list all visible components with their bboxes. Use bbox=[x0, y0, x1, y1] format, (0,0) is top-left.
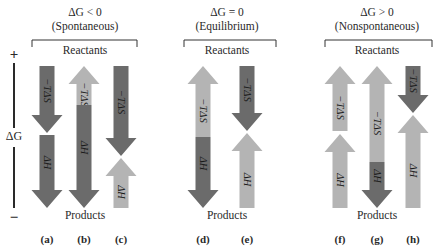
minus-t-delta-s-label: −TΔS bbox=[242, 77, 253, 102]
enthalpy-arrow-up bbox=[325, 134, 356, 208]
products-label: Products bbox=[65, 209, 106, 221]
panel-letter: (d) bbox=[196, 233, 210, 246]
minus-t-delta-s-label: −TΔS bbox=[79, 82, 90, 107]
panel-letter: (b) bbox=[77, 233, 91, 246]
arrow-column-a: −TΔSΔH(a) bbox=[32, 66, 63, 246]
minus-t-delta-s-label: −TΔS bbox=[372, 111, 383, 136]
enthalpy-arrow-up bbox=[232, 133, 263, 208]
axis-minus-sign: − bbox=[10, 209, 19, 225]
panel-letter: (h) bbox=[406, 233, 420, 246]
delta-h-label: ΔH bbox=[242, 172, 253, 188]
axis-plus-sign: + bbox=[10, 46, 19, 62]
minus-t-delta-s-label: −TΔS bbox=[198, 98, 209, 123]
panel-letter: (c) bbox=[115, 233, 128, 246]
products-label: Products bbox=[357, 209, 398, 221]
minus-t-delta-s-label: −TΔS bbox=[408, 68, 419, 93]
delta-h-label: ΔH bbox=[79, 140, 90, 156]
panel-letter: (a) bbox=[41, 233, 54, 246]
panel-letter: (g) bbox=[371, 233, 384, 246]
delta-h-label: ΔH bbox=[372, 168, 383, 184]
condition-description: (Equilibrium) bbox=[195, 20, 258, 33]
enthalpy-arrow-down bbox=[69, 105, 100, 208]
delta-h-label: ΔH bbox=[335, 172, 346, 188]
minus-t-delta-s-label: −TΔS bbox=[335, 95, 346, 120]
condition-description: (Spontaneous) bbox=[52, 20, 119, 33]
enthalpy-arrow-up bbox=[106, 158, 137, 208]
free-energy-diagram: +ΔG−ΔG < 0(Spontaneous)ReactantsProducts… bbox=[0, 0, 438, 251]
minus-t-delta-s-label: −TΔS bbox=[42, 78, 53, 103]
condition-label: ΔG < 0 bbox=[68, 6, 102, 18]
delta-h-label: ΔH bbox=[198, 156, 209, 172]
enthalpy-arrow-up bbox=[398, 115, 429, 208]
products-label: Products bbox=[207, 209, 248, 221]
delta-h-label: ΔH bbox=[42, 155, 53, 171]
panel-letter: (f) bbox=[335, 233, 346, 246]
condition-label: ΔG > 0 bbox=[360, 6, 394, 18]
panel-letter: (e) bbox=[241, 233, 254, 246]
minus-t-delta-s-label: −TΔS bbox=[116, 90, 127, 115]
axis-label: ΔG bbox=[6, 129, 23, 143]
reactants-label: Reactants bbox=[63, 44, 108, 56]
delta-h-label: ΔH bbox=[116, 184, 127, 200]
arrow-column-f: −TΔSΔH(f) bbox=[325, 66, 356, 246]
delta-h-label: ΔH bbox=[408, 163, 419, 179]
enthalpy-arrow-down bbox=[188, 137, 219, 208]
arrow-column-h: −TΔSΔH(h) bbox=[398, 66, 429, 246]
condition-label: ΔG = 0 bbox=[210, 6, 244, 18]
enthalpy-arrow-down bbox=[32, 135, 63, 208]
reactants-label: Reactants bbox=[205, 44, 250, 56]
arrow-column-c: −TΔSΔH(c) bbox=[106, 66, 137, 246]
diagram-canvas: +ΔG−ΔG < 0(Spontaneous)ReactantsProducts… bbox=[0, 0, 438, 251]
condition-description: (Nonspontaneous) bbox=[335, 20, 419, 33]
reactants-label: Reactants bbox=[355, 44, 400, 56]
